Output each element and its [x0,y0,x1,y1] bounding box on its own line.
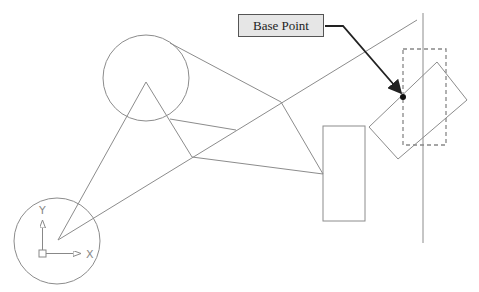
cad-drawing: Y X [0,0,479,292]
ucs-origin-square [39,250,46,257]
ucs-x-label: X [86,248,94,261]
triangle-left-edge [58,82,146,240]
triangle-right-edge [146,82,192,157]
rotated-rectangle [369,62,467,159]
base-point-callout: Base Point [238,14,324,37]
quad-bottom-edge [192,157,323,174]
circle-to-diagonal-line [170,119,236,130]
ucs-y-label: Y [38,204,46,217]
long-diagonal-line [58,20,417,240]
rectangle [323,126,365,221]
upper-circle [103,35,189,121]
base-point-marker [400,94,406,100]
origin-circle [14,198,100,284]
dashed-selection-rectangle [403,49,446,145]
quad-right-edge [281,102,323,174]
ucs-icon: Y X [38,204,94,261]
callout-leader-arrow [325,26,401,93]
